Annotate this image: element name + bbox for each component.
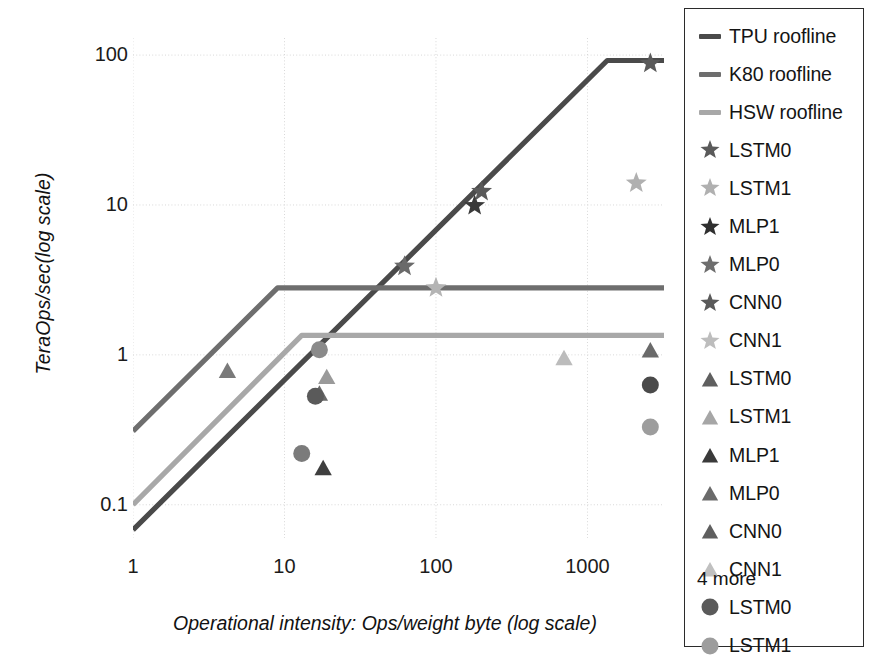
y-tick-label: 100 <box>38 44 128 64</box>
legend-item-label: K80 roofline <box>729 63 832 86</box>
triangle-marker-icon <box>695 442 725 468</box>
roofline-curves <box>133 61 664 530</box>
triangle-marker-icon <box>695 518 725 544</box>
star-marker-icon <box>695 328 725 354</box>
line-swatch-bar <box>699 110 721 115</box>
legend-item[interactable]: LSTM1 <box>685 169 863 207</box>
line-swatch-icon <box>695 99 725 125</box>
data-point-star <box>626 172 647 192</box>
legend-item-label: LSTM0 <box>729 367 791 390</box>
legend-item-label: HSW roofline <box>729 101 843 124</box>
legend-more-label[interactable]: 4 more <box>697 568 756 590</box>
legend-item-label: CNN1 <box>729 329 782 352</box>
legend-item-label: MLP1 <box>729 444 780 467</box>
legend-item-label: LSTM0 <box>729 596 791 619</box>
plot-area <box>133 38 664 538</box>
circle-marker-icon <box>695 594 725 620</box>
legend-item-label: TPU roofline <box>729 25 836 48</box>
data-point-star <box>426 277 447 297</box>
legend-item-label: LSTM0 <box>729 139 791 162</box>
legend-item-label: LSTM1 <box>729 634 791 657</box>
line-swatch-bar <box>699 34 721 39</box>
legend-item-label: CNN0 <box>729 291 782 314</box>
triangle-marker-icon <box>695 404 725 430</box>
data-point-triangle <box>642 342 659 357</box>
data-point-markers <box>219 52 661 475</box>
triangle-marker-icon <box>695 480 725 506</box>
star-marker-icon <box>695 214 725 240</box>
star-marker-icon <box>695 137 725 163</box>
data-point-triangle <box>314 460 331 475</box>
legend-item[interactable]: MLP0 <box>685 246 863 284</box>
data-point-triangle <box>555 350 572 365</box>
legend-item[interactable]: CNN0 <box>685 512 863 550</box>
legend-item-label: MLP0 <box>729 253 780 276</box>
triangle-marker-icon <box>695 366 725 392</box>
line-swatch-icon <box>695 23 725 49</box>
legend-item[interactable]: TPU roofline <box>685 17 863 55</box>
x-tick-label: 100 <box>396 556 476 576</box>
legend-item[interactable]: CNN1 <box>685 322 863 360</box>
legend-item-label: LSTM1 <box>729 177 791 200</box>
legend-item-label: MLP0 <box>729 482 780 505</box>
y-tick-label: 10 <box>38 194 128 214</box>
data-point-circle <box>307 388 324 405</box>
legend-item[interactable]: K80 roofline <box>685 55 863 93</box>
legend-item-label: CNN0 <box>729 520 782 543</box>
y-axis-tick-labels: 100 10 1 0.1 <box>33 0 128 560</box>
line-swatch-icon <box>695 61 725 87</box>
data-point-circle <box>642 376 659 393</box>
data-point-triangle <box>219 363 236 378</box>
x-tick-label: 1 <box>93 556 173 576</box>
line-swatch-bar <box>699 72 721 77</box>
roofline-chart-figure: TeraOps/sec(log scale) 100 10 1 0.1 1 10… <box>0 0 871 667</box>
plot-svg <box>133 38 664 538</box>
figure-canvas: TeraOps/sec(log scale) 100 10 1 0.1 1 10… <box>0 0 871 667</box>
legend-item-label: MLP1 <box>729 215 780 238</box>
legend-box: TPU rooflineK80 rooflineHSW rooflineLSTM… <box>684 8 864 647</box>
data-point-circle <box>293 445 310 462</box>
legend-item[interactable]: LSTM0 <box>685 360 863 398</box>
star-marker-icon <box>695 290 725 316</box>
data-point-circle <box>311 341 328 358</box>
legend-item[interactable]: LSTM1 <box>685 627 863 665</box>
legend-item[interactable]: MLP1 <box>685 436 863 474</box>
data-point-star <box>640 52 661 72</box>
circle-marker-icon <box>695 633 725 659</box>
legend-item-label: LSTM1 <box>729 405 791 428</box>
legend-item[interactable]: LSTM1 <box>685 398 863 436</box>
data-point-star <box>394 255 415 275</box>
star-marker-icon <box>695 252 725 278</box>
legend-item[interactable]: LSTM0 <box>685 131 863 169</box>
x-tick-label: 10 <box>244 556 324 576</box>
legend-item[interactable]: HSW roofline <box>685 93 863 131</box>
star-marker-icon <box>695 175 725 201</box>
data-point-circle <box>642 419 659 436</box>
data-point-triangle <box>318 369 335 384</box>
legend-item[interactable]: MLP0 <box>685 474 863 512</box>
x-tick-label: 1000 <box>547 556 627 576</box>
y-tick-label: 0.1 <box>38 494 128 514</box>
legend-item[interactable]: LSTM0 <box>685 588 863 626</box>
legend-item[interactable]: MLP1 <box>685 207 863 245</box>
legend-item[interactable]: CNN0 <box>685 284 863 322</box>
x-axis-title: Operational intensity: Ops/weight byte (… <box>95 612 675 635</box>
y-tick-label: 1 <box>38 344 128 364</box>
